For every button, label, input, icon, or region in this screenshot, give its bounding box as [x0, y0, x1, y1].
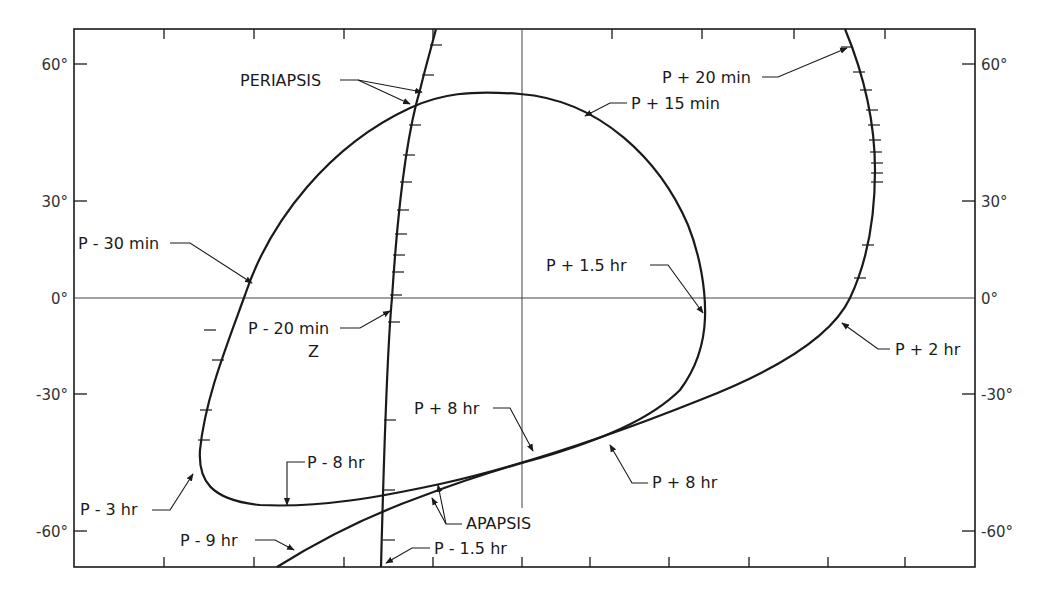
label-p-plus-20-min: P + 20 min: [662, 68, 751, 87]
leader-pm9hr: [255, 540, 294, 550]
label-p-plus-1-5-hr: P + 1.5 hr: [546, 256, 627, 275]
leader-p8hr-lower: [610, 445, 648, 483]
y-label-right-neg60: -60°: [981, 523, 1013, 541]
leader-pm20min: [340, 311, 390, 328]
leader-p2hr: [842, 323, 890, 349]
label-p-plus-2-hr: P + 2 hr: [895, 340, 961, 359]
y-label-left-neg60: -60°: [36, 523, 68, 541]
label-p-plus-15-min: P + 15 min: [631, 94, 720, 113]
y-label-right-neg30: -30°: [981, 386, 1013, 404]
track-tick-marks: [198, 45, 883, 540]
label-p-minus-8-hr: P - 8 hr: [307, 453, 365, 472]
label-apapsis: APAPSIS: [466, 514, 531, 533]
label-z: Z: [308, 342, 319, 361]
y-label-left-neg30: -30°: [36, 386, 68, 404]
label-p-minus-9-hr: P - 9 hr: [180, 531, 238, 550]
label-periapsis: PERIAPSIS: [240, 71, 321, 90]
leader-p20min: [762, 48, 847, 77]
y-label-left-0: 0°: [51, 290, 68, 308]
leader-pm3hr: [152, 474, 193, 510]
label-p-minus-3-hr: P - 3 hr: [80, 500, 138, 519]
leader-p1_5hr: [650, 265, 703, 313]
y-label-right-30: 30°: [981, 193, 1008, 211]
leader-pm1_5hr: [386, 548, 430, 563]
label-p-minus-30-min: P - 30 min: [78, 234, 159, 253]
y-label-right-0: 0°: [981, 290, 998, 308]
leader-pm8hr: [287, 462, 305, 505]
label-p-plus-8-hr-lower: P + 8 hr: [652, 473, 718, 492]
leader-apapsis-1: [438, 485, 462, 524]
leader-periapsis-2: [358, 80, 410, 104]
leader-apapsis-2: [432, 498, 446, 524]
leader-p8hr-upper: [493, 408, 533, 451]
y-label-left-60: 60°: [41, 56, 68, 74]
label-p-minus-1-5-hr: P - 1.5 hr: [434, 539, 507, 558]
label-p-minus-20-min: P - 20 min: [248, 319, 329, 338]
track-loop: [200, 29, 875, 505]
leader-pm30min: [170, 243, 252, 283]
y-label-right-60: 60°: [981, 56, 1008, 74]
ground-track-chart: 60° 30° 0° -30° -60° 60° 30° 0° -30° -60…: [0, 0, 1055, 599]
label-p-plus-8-hr-upper: P + 8 hr: [414, 399, 480, 418]
y-label-left-30: 30°: [41, 193, 68, 211]
